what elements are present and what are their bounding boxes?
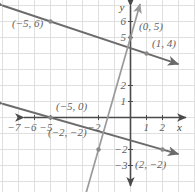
- point-label-pt-n5-0: (−5, 0): [56, 101, 87, 112]
- x-tick--5: −5: [40, 122, 53, 133]
- y-tick-1: 1: [121, 96, 127, 107]
- x-axis-label: x: [177, 122, 182, 133]
- graph-figure: (−5, 6)(0, 5)(1, 4)(−5, 0)(−2, −2)(2, −2…: [0, 0, 195, 192]
- x-tick--7: −7: [8, 122, 21, 133]
- x-tick--6: −6: [24, 122, 37, 133]
- y-tick--3: −3: [115, 160, 128, 171]
- y-axis-label: y: [120, 2, 125, 13]
- point-label-pt-0-5: (0, 5): [139, 21, 163, 32]
- point-label-pt-2-n2: (2, −2): [135, 159, 166, 170]
- point-label-pt-1-4: (1, 4): [152, 38, 176, 49]
- point-label-pt-n2-n2: (−2, −2): [48, 127, 87, 138]
- point-label-pt-n5-6: (−5, 6): [12, 18, 43, 29]
- x-tick-2: 2: [160, 122, 166, 133]
- y-tick--2: −2: [115, 144, 128, 155]
- plot-line-2: [86, 4, 140, 192]
- plot-line-0: [3, 6, 179, 65]
- y-tick-6: 6: [121, 16, 127, 27]
- x-tick-1: 1: [144, 122, 150, 133]
- y-tick-5: 5: [121, 32, 127, 43]
- x-tick--2: −2: [88, 122, 101, 133]
- y-tick-2: 2: [121, 80, 127, 91]
